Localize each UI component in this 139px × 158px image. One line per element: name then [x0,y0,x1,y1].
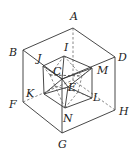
label-E: E [67,81,76,94]
label-I: I [63,41,69,54]
cube-icosahedron-diagram: A B I J D C M K E L F H N G [0,0,139,158]
label-M: M [96,64,109,77]
label-B: B [8,46,17,59]
label-J: J [35,52,42,65]
label-F: F [8,98,17,111]
label-K: K [25,87,35,100]
label-L: L [92,91,100,104]
label-A: A [69,10,78,23]
label-D: D [117,51,127,64]
label-H: H [118,105,129,118]
label-C: C [53,65,62,78]
label-N: N [62,112,73,125]
label-G: G [58,138,67,151]
